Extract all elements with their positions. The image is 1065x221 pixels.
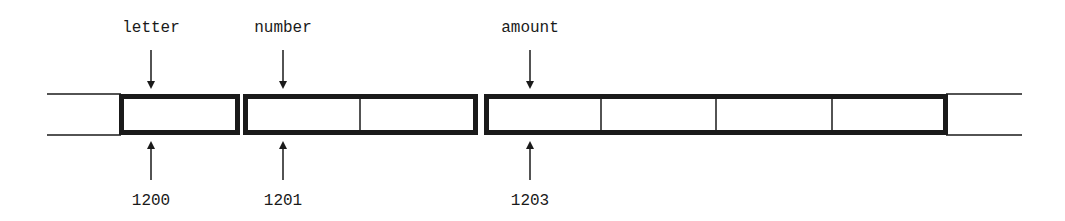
variable-block-letter <box>122 97 238 133</box>
memory-rails <box>47 94 1022 135</box>
variable-block-number <box>246 97 476 133</box>
label-number: number <box>254 19 312 37</box>
label-letter: letter <box>122 19 180 37</box>
label-amount: amount <box>501 19 559 37</box>
memory-cell <box>122 97 238 133</box>
address-letter: 1200 <box>132 192 170 210</box>
address-number: 1201 <box>264 192 302 210</box>
address-amount: 1203 <box>511 192 549 210</box>
variable-block-amount <box>487 97 946 133</box>
memory-diagram: letter number amount 1200 1201 1203 <box>0 0 1065 221</box>
